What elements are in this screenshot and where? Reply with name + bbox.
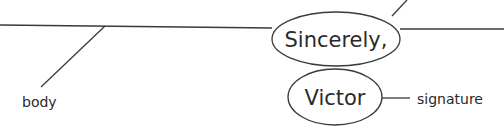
baseline-left — [0, 25, 272, 28]
sentence-diagram: Sincerely, Victor body signature closing — [0, 0, 504, 132]
closing-connector — [392, 0, 407, 16]
body-label: body — [22, 94, 57, 110]
body-connector — [41, 26, 105, 87]
signer-text: Victor — [304, 86, 365, 110]
signature-label: signature — [417, 91, 483, 107]
closing-text: Sincerely, — [285, 28, 388, 52]
